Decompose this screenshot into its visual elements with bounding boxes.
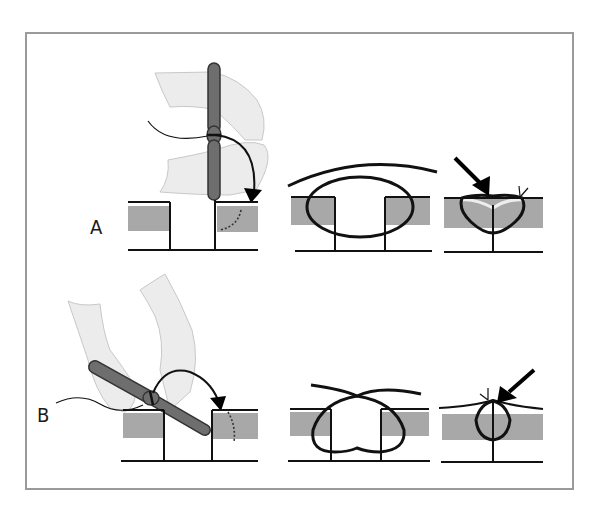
needle-holder-bottom-icon	[208, 140, 220, 200]
suture-technique-diagram: A	[0, 0, 595, 512]
needle-holder-top-icon	[208, 63, 220, 133]
panel-b-label: B	[37, 403, 49, 427]
tissue-left	[128, 206, 170, 231]
panel-a-label: A	[90, 215, 103, 239]
